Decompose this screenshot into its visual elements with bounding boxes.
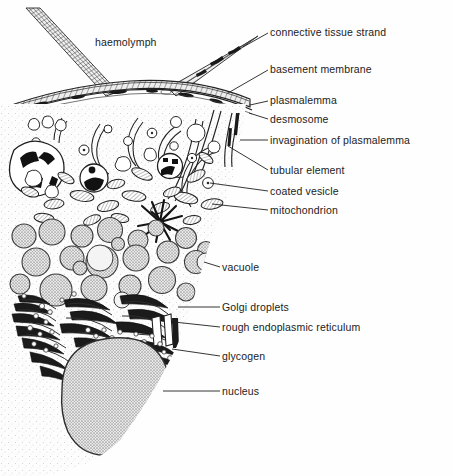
label-basement-membrane: basement membrane xyxy=(270,63,372,75)
label-golgi-droplets: Golgi droplets xyxy=(222,301,289,313)
label-rough-endoplasmic-reticulum: rough endoplasmic reticulum xyxy=(222,321,360,333)
label-coated-vesicle: coated vesicle xyxy=(270,185,339,197)
label-vacuole: vacuole xyxy=(222,261,259,273)
label-mitochondrion: mitochondrion xyxy=(270,204,338,216)
label-nucleus: nucleus xyxy=(222,385,259,397)
label-glycogen: glycogen xyxy=(222,350,265,362)
label-tubular-element: tubular element xyxy=(270,164,345,176)
label-plasmalemma: plasmalemma xyxy=(270,94,337,106)
label-connective-tissue-strand: connective tissue strand xyxy=(270,26,386,38)
label-invagination-of-plasmalemma: invagination of plasmalemma xyxy=(270,134,410,146)
label-haemolymph: haemolymph xyxy=(95,36,157,48)
label-desmosome: desmosome xyxy=(270,113,329,125)
figure-canvas: haemolymph connective tissue strandbasem… xyxy=(0,0,454,476)
cell-ultrastructure-diagram xyxy=(0,0,454,476)
